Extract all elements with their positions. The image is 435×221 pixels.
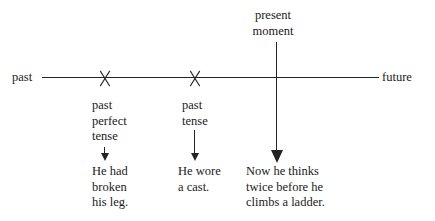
timeline-axis-line — [42, 77, 379, 78]
present-moment-label: present moment — [246, 8, 300, 39]
axis-label-past: past — [12, 71, 32, 84]
arrow-shaft — [194, 130, 195, 155]
example-sentence-past-tense: He wore a cast. — [178, 164, 221, 195]
tense-label-past-tense: past tense — [182, 98, 208, 129]
example-sentence-past-perfect: He had broken his leg. — [92, 164, 128, 211]
down-arrow-icon-past-perfect — [101, 147, 110, 161]
example-sentence-present: Now he thinks twice before he climbs a l… — [246, 164, 325, 211]
tense-label-past-perfect: past perfect tense — [92, 98, 127, 145]
x-marker-past-perfect — [96, 68, 114, 88]
timeline-diagram: past future present moment past perfect … — [0, 0, 435, 221]
arrow-head — [101, 153, 109, 161]
present-moment-down-arrow-icon — [271, 42, 283, 163]
axis-label-future: future — [382, 71, 412, 84]
arrow-head — [191, 153, 199, 161]
down-arrow-icon-past-tense — [191, 130, 200, 161]
x-marker-past-tense — [186, 68, 204, 88]
arrow-shaft — [276, 42, 277, 154]
arrow-head — [271, 150, 283, 163]
